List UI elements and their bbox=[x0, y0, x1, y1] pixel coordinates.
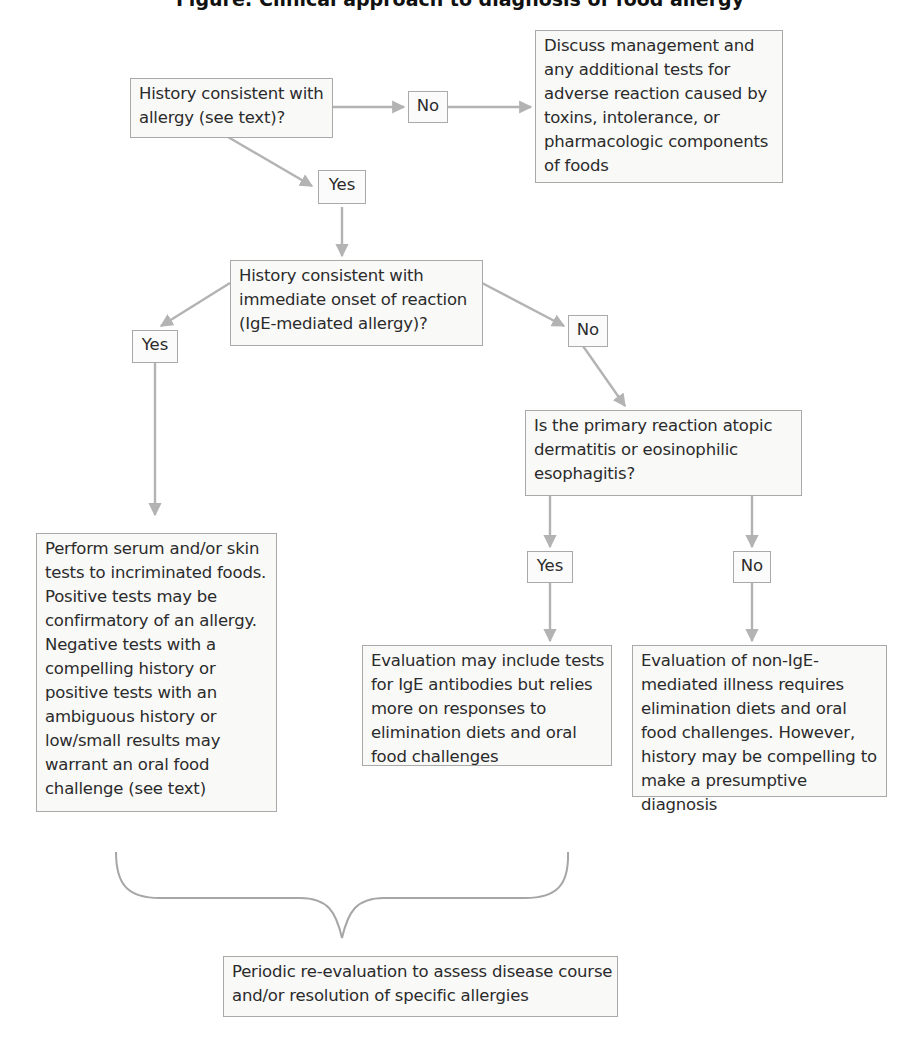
node-text-line: low/small results may bbox=[45, 729, 268, 753]
arrow-immediate-to-yes bbox=[161, 283, 230, 326]
node-text-line: Evaluation may include tests bbox=[371, 649, 603, 673]
node-text-line: make a presumptive bbox=[641, 769, 878, 793]
label-yes-3: Yes bbox=[527, 551, 573, 583]
node-text-line: confirmatory of an allergy. bbox=[45, 609, 268, 633]
node-text-line: toxins, intolerance, or bbox=[544, 106, 774, 130]
node-text-line: elimination diets and oral bbox=[641, 697, 878, 721]
node-text-line: any additional tests for bbox=[544, 58, 774, 82]
label-yes-2: Yes bbox=[132, 330, 178, 363]
outcome-ige-antibody-evaluation: Evaluation may include tests for IgE ant… bbox=[362, 645, 612, 766]
curly-brace-connector bbox=[116, 852, 568, 938]
outcome-discuss-management: Discuss management and any additional te… bbox=[535, 30, 783, 183]
decision-primary-reaction: Is the primary reaction atopic dermatiti… bbox=[525, 410, 802, 496]
node-text-line: Perform serum and/or skin bbox=[45, 537, 268, 561]
node-text-line: pharmacologic components bbox=[544, 130, 774, 154]
node-text-line: History consistent with bbox=[139, 82, 324, 106]
node-text-line: diagnosis bbox=[641, 793, 878, 817]
node-text-line: Periodic re-evaluation to assess disease… bbox=[232, 960, 609, 984]
node-text-line: History consistent with bbox=[239, 264, 474, 288]
node-text-line: warrant an oral food bbox=[45, 753, 268, 777]
node-text-line: and/or resolution of specific allergies bbox=[232, 984, 609, 1008]
node-text-line: ambiguous history or bbox=[45, 705, 268, 729]
node-text-line: elimination diets and oral bbox=[371, 721, 603, 745]
node-text-line: mediated illness requires bbox=[641, 673, 878, 697]
label-no-2: No bbox=[568, 315, 608, 347]
label-no-3: No bbox=[733, 551, 771, 583]
node-text-line: Discuss management and bbox=[544, 34, 774, 58]
node-text-line: Is the primary reaction atopic bbox=[534, 414, 793, 438]
arrow-immediate-to-no bbox=[482, 283, 564, 326]
node-text-line: tests to incriminated foods. bbox=[45, 561, 268, 585]
node-text-line: of foods bbox=[544, 154, 774, 178]
label-no-1: No bbox=[408, 91, 448, 123]
node-text-line: compelling history or bbox=[45, 657, 268, 681]
decision-immediate-onset: History consistent with immediate onset … bbox=[230, 260, 483, 346]
outcome-non-ige-evaluation: Evaluation of non-IgE- mediated illness … bbox=[632, 645, 887, 797]
outcome-serum-skin-tests: Perform serum and/or skin tests to incri… bbox=[36, 533, 277, 812]
node-text-line: challenge (see text) bbox=[45, 777, 268, 801]
arrow-no-to-primary bbox=[583, 346, 625, 406]
decision-history-allergy: History consistent with allergy (see tex… bbox=[130, 78, 333, 138]
node-text-line: more on responses to bbox=[371, 697, 603, 721]
node-text-line: positive tests with an bbox=[45, 681, 268, 705]
node-text-line: for IgE antibodies but relies bbox=[371, 673, 603, 697]
node-text-line: history may be compelling to bbox=[641, 745, 878, 769]
node-text-line: food challenges. However, bbox=[641, 721, 878, 745]
node-text-line: Negative tests with a bbox=[45, 633, 268, 657]
node-text-line: Evaluation of non-IgE- bbox=[641, 649, 878, 673]
node-text-line: adverse reaction caused by bbox=[544, 82, 774, 106]
label-yes-1: Yes bbox=[318, 170, 366, 204]
arrow-history-to-yes bbox=[228, 137, 312, 186]
node-text-line: (IgE-mediated allergy)? bbox=[239, 312, 474, 336]
node-text-line: immediate onset of reaction bbox=[239, 288, 474, 312]
final-periodic-reevaluation: Periodic re-evaluation to assess disease… bbox=[223, 956, 618, 1017]
node-text-line: food challenges bbox=[371, 745, 603, 769]
node-text-line: allergy (see text)? bbox=[139, 106, 324, 130]
node-text-line: esophagitis? bbox=[534, 462, 793, 486]
node-text-line: dermatitis or eosinophilic bbox=[534, 438, 793, 462]
node-text-line: Positive tests may be bbox=[45, 585, 268, 609]
